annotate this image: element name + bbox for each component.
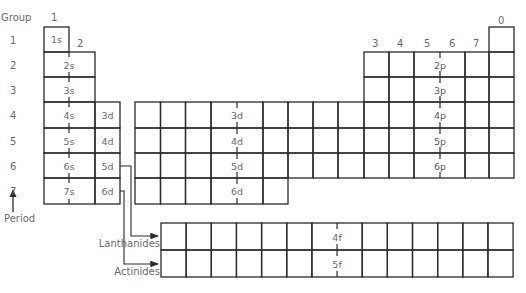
f-cell bbox=[236, 223, 261, 250]
f-cell bbox=[413, 223, 438, 250]
f-cell bbox=[438, 250, 463, 277]
group-number-7: 7 bbox=[473, 38, 479, 49]
f-cell bbox=[161, 223, 186, 250]
label-2s: 2s bbox=[64, 60, 75, 71]
f-cell bbox=[287, 250, 312, 277]
actinides-connector-arrow-icon bbox=[120, 191, 158, 264]
p-cell bbox=[465, 102, 489, 128]
lanthanides-connector-arrow-icon bbox=[120, 166, 158, 236]
p-cell bbox=[465, 52, 489, 77]
d-cell bbox=[161, 102, 186, 128]
label-side-3d: 3d bbox=[101, 110, 113, 121]
f-cell bbox=[387, 250, 412, 277]
d-cell bbox=[186, 153, 212, 178]
d-cell bbox=[338, 102, 364, 128]
group-number-6: 6 bbox=[449, 38, 455, 49]
d-cell bbox=[338, 153, 364, 178]
f-cell bbox=[186, 250, 211, 277]
f-cell bbox=[362, 223, 387, 250]
d-cell bbox=[135, 128, 161, 153]
group-number-0: 0 bbox=[498, 15, 504, 26]
label-6d: 6d bbox=[231, 186, 243, 197]
p-cell bbox=[389, 153, 414, 178]
period-number-5: 5 bbox=[10, 136, 16, 147]
group-number-3: 3 bbox=[372, 38, 378, 49]
label-2p: 2p bbox=[434, 60, 446, 71]
label-side-6d: 6d bbox=[101, 186, 113, 197]
d-block-side-column: 3d4d5d6d bbox=[95, 102, 120, 204]
d-block: 3d4d5d6d bbox=[135, 102, 364, 204]
d-cell bbox=[288, 128, 313, 153]
d-cell bbox=[338, 128, 364, 153]
label-7s: 7s bbox=[64, 186, 75, 197]
label-4d: 4d bbox=[231, 136, 243, 147]
group-number-2: 2 bbox=[77, 38, 83, 49]
p-cell bbox=[489, 52, 514, 77]
label-5f: 5f bbox=[332, 259, 342, 270]
label-5s: 5s bbox=[64, 136, 75, 147]
lanthanides-label: Lanthanides bbox=[99, 238, 160, 249]
p-cell bbox=[364, 153, 389, 178]
d-cell bbox=[161, 153, 186, 178]
f-cell bbox=[262, 250, 287, 277]
label-4f: 4f bbox=[332, 232, 342, 243]
actinides-label: Actinides bbox=[114, 266, 160, 277]
period-number-3: 3 bbox=[10, 85, 16, 96]
group-number-1: 1 bbox=[51, 12, 57, 23]
p-cell bbox=[364, 77, 389, 102]
p-cell bbox=[389, 77, 414, 102]
p-cell bbox=[465, 77, 489, 102]
d-cell bbox=[313, 128, 338, 153]
d-cell bbox=[161, 178, 186, 204]
f-cell bbox=[161, 250, 186, 277]
f-cell bbox=[488, 250, 513, 277]
p-cell bbox=[489, 128, 514, 153]
d-cell bbox=[186, 128, 212, 153]
period-numbers: 1234567 bbox=[10, 35, 16, 198]
label-3p: 3p bbox=[434, 85, 446, 96]
f-cell bbox=[463, 223, 488, 250]
d-cell bbox=[263, 178, 288, 204]
d-cell bbox=[288, 153, 313, 178]
f-cell bbox=[262, 223, 287, 250]
cell-group0-period1 bbox=[489, 27, 514, 52]
f-cell bbox=[186, 223, 211, 250]
p-cell bbox=[489, 77, 514, 102]
f-cell bbox=[488, 223, 513, 250]
p-cell bbox=[364, 128, 389, 153]
p-cell bbox=[389, 102, 414, 128]
label-4s: 4s bbox=[64, 110, 75, 121]
s-block: 1s2s3s4s5s6s7s bbox=[44, 27, 95, 204]
p-cell bbox=[465, 153, 489, 178]
label-4p: 4p bbox=[434, 110, 446, 121]
label-5p: 5p bbox=[434, 136, 446, 147]
period-number-6: 6 bbox=[10, 161, 16, 172]
label-5d: 5d bbox=[231, 161, 243, 172]
period-number-4: 4 bbox=[10, 110, 16, 121]
d-cell bbox=[186, 102, 212, 128]
f-cell bbox=[287, 223, 312, 250]
p-cell bbox=[489, 102, 514, 128]
period-number-7: 7 bbox=[10, 186, 16, 197]
label-3d: 3d bbox=[231, 110, 243, 121]
p-cell bbox=[465, 128, 489, 153]
d-cell bbox=[135, 153, 161, 178]
d-cell bbox=[313, 153, 338, 178]
p-cell bbox=[364, 52, 389, 77]
f-block: 4f5f bbox=[161, 223, 513, 277]
p-cell bbox=[389, 52, 414, 77]
f-cell bbox=[413, 250, 438, 277]
group-number-5: 5 bbox=[424, 38, 430, 49]
d-cell bbox=[161, 128, 186, 153]
period-number-1: 1 bbox=[10, 35, 16, 46]
group-axis-label: Group bbox=[1, 12, 31, 23]
label-side-4d: 4d bbox=[101, 136, 113, 147]
f-cell bbox=[362, 250, 387, 277]
f-cell bbox=[211, 250, 236, 277]
p-block: 2p3p4p5p6p bbox=[364, 27, 514, 178]
f-cell bbox=[463, 250, 488, 277]
d-cell bbox=[288, 102, 313, 128]
p-cell bbox=[389, 128, 414, 153]
d-cell bbox=[263, 128, 288, 153]
label-6s: 6s bbox=[64, 161, 75, 172]
